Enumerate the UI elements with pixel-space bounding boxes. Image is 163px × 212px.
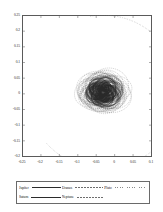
legend-label-neptune: Neptune bbox=[62, 195, 74, 199]
legend-line-sample-jupiter bbox=[30, 186, 62, 190]
legend-label-saturn: Saturn bbox=[19, 195, 28, 199]
legend-entry-saturn[interactable]: Saturn bbox=[19, 193, 62, 203]
legend-entry-pluto[interactable]: Pluto bbox=[104, 183, 147, 193]
legend-entry-empty bbox=[104, 193, 147, 203]
figure-canvas: 0.25 0.2 0.15 0.1 0.05 0 -0.05 -0.1 -0.1… bbox=[0, 0, 163, 212]
legend-label-uranus: Uranus bbox=[62, 186, 72, 190]
legend-entry-jupiter[interactable]: Jupiter bbox=[19, 183, 62, 193]
legend-line-sample-saturn bbox=[29, 195, 61, 199]
legend-line-sample-uranus bbox=[73, 186, 104, 190]
legend-label-pluto: Pluto bbox=[104, 186, 112, 190]
axis-tick-marks bbox=[23, 16, 152, 157]
legend-label-jupiter: Jupiter bbox=[19, 186, 29, 190]
legend-line-sample-pluto bbox=[113, 186, 147, 190]
legend-entry-uranus[interactable]: Uranus bbox=[62, 183, 105, 193]
legend-box: Jupiter Uranus Pluto Saturn Neptune bbox=[16, 181, 150, 204]
legend-entry-neptune[interactable]: Neptune bbox=[62, 193, 105, 203]
legend-line-sample-neptune bbox=[75, 195, 104, 199]
